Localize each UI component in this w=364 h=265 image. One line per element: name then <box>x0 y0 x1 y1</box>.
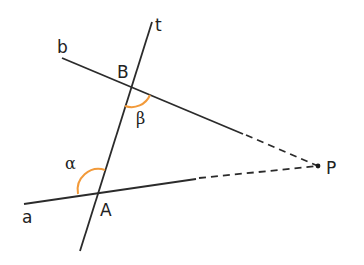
label-line-b: b <box>57 37 68 57</box>
label-point-b: B <box>117 62 129 82</box>
line-t <box>80 22 152 251</box>
label-angle-alpha: α <box>65 154 76 173</box>
point-p-dot <box>316 164 321 169</box>
geometry-diagram: t b a B A P β α <box>0 0 364 265</box>
label-point-a: A <box>100 200 112 220</box>
diagram-svg: t b a B A P β α <box>0 0 364 265</box>
line-b-extension-dashed <box>246 135 318 166</box>
label-point-p: P <box>326 158 336 178</box>
label-angle-beta: β <box>136 109 145 128</box>
line-a-extension-dashed <box>199 166 318 178</box>
angle-alpha-arc <box>78 169 105 194</box>
line-b <box>62 58 243 134</box>
label-line-a: a <box>22 207 32 227</box>
label-line-t: t <box>155 15 162 35</box>
